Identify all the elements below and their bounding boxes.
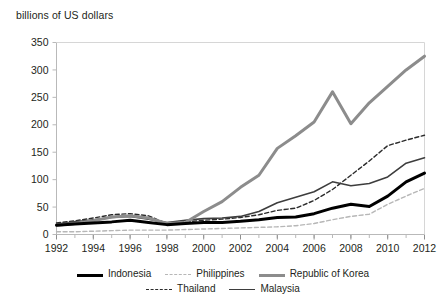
y-axis-tick-label: 100 bbox=[31, 173, 49, 185]
x-axis-tick-label: 2008 bbox=[339, 242, 363, 254]
legend-item-philippines[interactable]: Philippines bbox=[165, 268, 244, 279]
y-axis-tick-label: 300 bbox=[31, 64, 49, 76]
data-series-group bbox=[57, 56, 425, 232]
legend-item-malaysia[interactable]: Malaysia bbox=[229, 283, 299, 294]
series-line-philippines bbox=[57, 188, 425, 231]
y-axis-tick-group: 050100150200250300350 bbox=[31, 36, 57, 240]
y-axis-tick-label: 250 bbox=[31, 91, 49, 103]
x-axis-tick-label: 2002 bbox=[229, 242, 253, 254]
x-axis-tick-label: 1994 bbox=[82, 242, 106, 254]
y-axis-tick-label: 0 bbox=[43, 228, 49, 240]
chart-plot-area: 050100150200250300350 199219941996199820… bbox=[0, 0, 446, 306]
legend-row-1: Indonesia Philippines Republic of Korea bbox=[0, 266, 446, 281]
chart-legend: Indonesia Philippines Republic of Korea … bbox=[0, 266, 446, 296]
x-axis-tick-label: 2000 bbox=[192, 242, 216, 254]
y-axis-tick-label: 350 bbox=[31, 36, 49, 48]
legend-label-malaysia: Malaysia bbox=[260, 283, 299, 294]
x-axis-tick-label: 1996 bbox=[118, 242, 142, 254]
legend-row-2: Thailand Malaysia bbox=[0, 281, 446, 296]
x-axis-tick-group: 1992199419961998200020022004200620082010… bbox=[45, 235, 437, 254]
x-axis-tick-label: 2004 bbox=[266, 242, 290, 254]
x-axis-tick-label: 2012 bbox=[413, 242, 437, 254]
x-axis-tick-label: 2010 bbox=[376, 242, 400, 254]
y-axis-tick-label: 200 bbox=[31, 118, 49, 130]
x-axis-tick-label: 2006 bbox=[302, 242, 326, 254]
series-line-republic-of-korea bbox=[57, 56, 425, 225]
legend-label-philippines: Philippines bbox=[196, 268, 244, 279]
legend-label-korea: Republic of Korea bbox=[290, 268, 370, 279]
legend-label-indonesia: Indonesia bbox=[108, 268, 151, 279]
chart-container: billions of US dollars 05010015020025030… bbox=[0, 0, 446, 306]
x-axis-tick-label: 1992 bbox=[45, 242, 69, 254]
x-axis-tick-label: 1998 bbox=[155, 242, 179, 254]
series-line-thailand bbox=[57, 135, 425, 223]
legend-item-korea[interactable]: Republic of Korea bbox=[259, 268, 370, 279]
y-axis-tick-label: 150 bbox=[31, 146, 49, 158]
legend-label-thailand: Thailand bbox=[177, 283, 215, 294]
y-axis-tick-label: 50 bbox=[37, 201, 49, 213]
legend-item-thailand[interactable]: Thailand bbox=[146, 283, 215, 294]
legend-item-indonesia[interactable]: Indonesia bbox=[77, 268, 151, 279]
